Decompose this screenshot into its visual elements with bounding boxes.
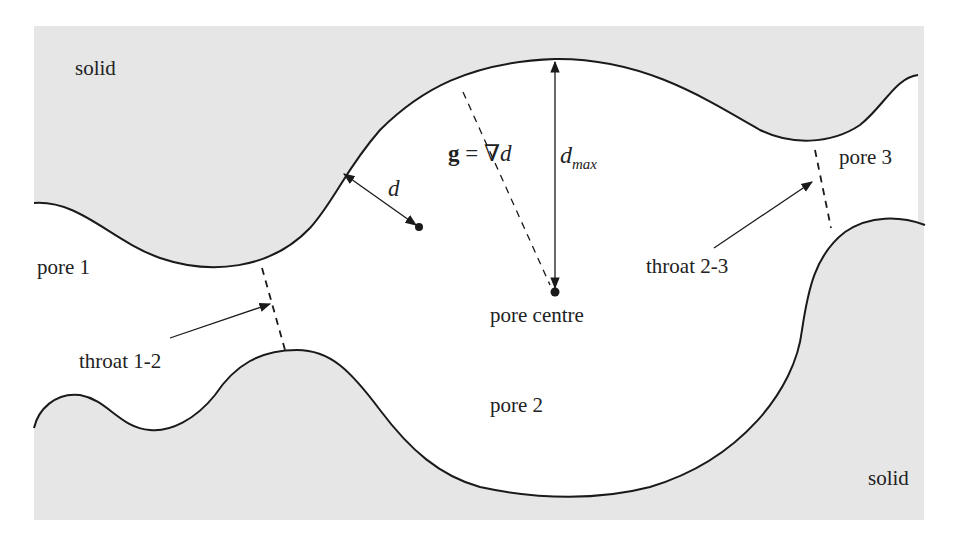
pore-2-label: pore 2	[490, 395, 543, 416]
throat-23-label: throat 2-3	[646, 256, 728, 277]
pore-3-label: pore 3	[839, 147, 892, 168]
gradient-label: g = ∇d	[448, 142, 512, 165]
pore-1-label: pore 1	[37, 257, 90, 278]
dmax-subscript: max	[572, 156, 597, 172]
dmax-label: dmax	[560, 143, 597, 167]
solid-bottom-label: solid	[868, 468, 909, 489]
gradient-equals-nabla: = ∇	[460, 141, 501, 166]
pore-centre-label: pore centre	[490, 305, 584, 326]
pore-centre-dot	[551, 288, 560, 297]
distance-point-dot	[415, 223, 423, 231]
gradient-g-symbol: g	[448, 141, 460, 166]
dmax-d-symbol: d	[560, 142, 572, 168]
solid-top-label: solid	[75, 58, 116, 79]
distance-label: d	[388, 177, 400, 200]
throat-12-label: throat 1-2	[79, 351, 161, 372]
gradient-d-symbol: d	[500, 141, 512, 166]
pore-network-diagram: solid solid pore 1 pore 2 pore 3 pore ce…	[0, 0, 956, 541]
diagram-canvas	[0, 0, 956, 541]
